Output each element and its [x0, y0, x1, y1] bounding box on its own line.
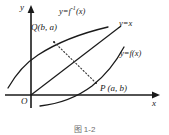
inverse-function-curve: [8, 27, 108, 88]
figure-caption: 图 1-2: [0, 125, 169, 135]
inverse-function-label: y=f-1(x): [59, 5, 85, 15]
identity-line-label: y=x: [119, 19, 132, 28]
y-axis-label: y: [20, 3, 24, 12]
point-q-marker: [53, 41, 55, 43]
inverse-function-label-tail: (x): [76, 6, 85, 16]
function-label: y=f(x): [120, 49, 141, 58]
point-p-marker: [95, 82, 97, 84]
point-p-label: P (a, b): [100, 84, 127, 93]
origin-label: O: [21, 97, 28, 106]
figure-drawing: [0, 0, 169, 135]
figure-container: y x O y=f-1(x) y=x y=f(x) Q(b, a) P (a, …: [0, 0, 169, 135]
inverse-function-label-base: y=f: [59, 6, 71, 16]
point-q-label: Q(b, a): [31, 23, 57, 32]
reflection-dotted-segment: [54, 42, 96, 83]
x-axis-label: x: [152, 99, 156, 108]
